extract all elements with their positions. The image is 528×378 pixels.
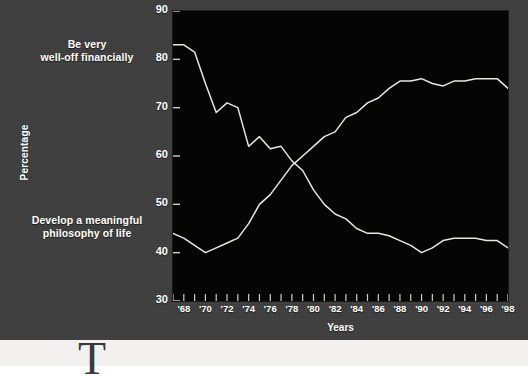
- x-tick-label: '86: [372, 303, 385, 314]
- x-tick-label: '80: [307, 303, 320, 314]
- y-tick-label: 60: [134, 148, 168, 160]
- x-tick-label: '96: [480, 303, 493, 314]
- x-axis-title: Years: [173, 322, 508, 333]
- x-axis-tick-labels: '68'70'72'74'76'78'80'82'84'86'88'90'92'…: [173, 303, 508, 319]
- x-tick-label: '76: [264, 303, 277, 314]
- x-tick-label: '74: [242, 303, 255, 314]
- plot-area: [173, 11, 508, 301]
- x-tick-label: '82: [329, 303, 342, 314]
- x-tick-label: '72: [221, 303, 234, 314]
- y-tick-label: 90: [134, 3, 168, 15]
- y-tick-label: 80: [134, 51, 168, 63]
- x-tick-label: '84: [350, 303, 363, 314]
- x-tick-label: '98: [502, 303, 515, 314]
- y-axis-title: Percentage: [19, 113, 30, 193]
- x-tick-label: '94: [458, 303, 471, 314]
- x-tick-label: '68: [177, 303, 190, 314]
- y-tick-label: 70: [134, 100, 168, 112]
- x-tick-label: '78: [285, 303, 298, 314]
- y-tick-label: 30: [134, 293, 168, 305]
- y-tick-label: 50: [134, 196, 168, 208]
- chart-svg: [173, 11, 508, 301]
- x-tick-label: '90: [415, 303, 428, 314]
- x-tick-label: '88: [394, 303, 407, 314]
- y-axis-tick-labels: 90807060504030: [130, 0, 168, 340]
- x-tick-label: '70: [199, 303, 212, 314]
- y-tick-label: 40: [134, 245, 168, 257]
- data-lines: [173, 45, 508, 253]
- body-text-dropcap: T: [78, 336, 106, 378]
- x-tick-label: '92: [437, 303, 450, 314]
- y-axis-ticks: [173, 11, 180, 301]
- x-axis-ticks: [173, 294, 508, 301]
